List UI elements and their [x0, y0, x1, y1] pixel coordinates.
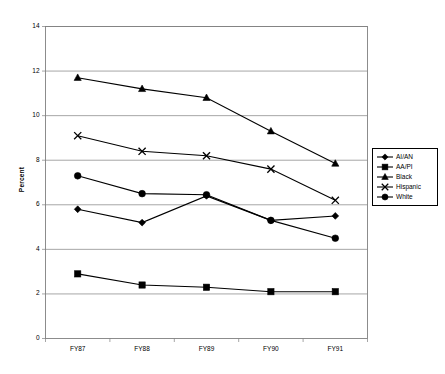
legend-marker-diamond-icon: [376, 152, 394, 162]
x-axis-tickmarks: [46, 339, 368, 343]
legend-item-black[interactable]: Black: [376, 172, 433, 182]
legend-marker-square-icon: [376, 162, 394, 172]
legend-item-aapi[interactable]: AA/PI: [376, 162, 433, 172]
legend-item-white[interactable]: White: [376, 192, 433, 202]
series-aapi: [75, 271, 339, 295]
series-black: [74, 74, 339, 166]
legend-marker-x-icon: [376, 182, 394, 192]
y-axis-tickmarks: [42, 27, 46, 339]
legend-label: AA/PI: [396, 162, 413, 172]
legend-label: White: [396, 192, 413, 202]
legend-label: Hispanic: [396, 182, 421, 192]
legend-label: Black: [396, 172, 412, 182]
legend-label: AI/AN: [396, 152, 413, 162]
gridlines: [46, 27, 368, 294]
legend-marker-circle-icon: [376, 192, 394, 202]
data-series-layer: [74, 74, 339, 295]
line-chart: Percent 02468101214 FY87FY88FY89FY90FY91…: [0, 0, 445, 374]
legend-item-hispanic[interactable]: Hispanic: [376, 182, 433, 192]
legend-marker-triangle-icon: [376, 172, 394, 182]
legend-item-aian[interactable]: AI/AN: [376, 152, 433, 162]
chart-legend: AI/ANAA/PIBlackHispanicWhite: [372, 148, 438, 206]
